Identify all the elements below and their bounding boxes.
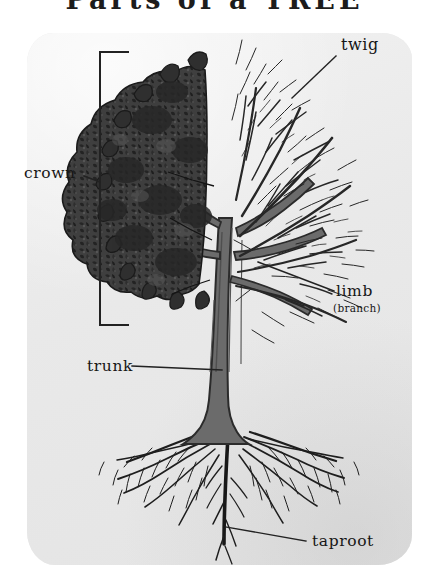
- twig-leader: [292, 56, 336, 98]
- label-limb: limb: [336, 284, 373, 300]
- label-limb-alternate-name: (branch): [333, 303, 381, 314]
- foliage-crown: [62, 52, 214, 309]
- label-taproot: taproot: [312, 534, 374, 550]
- label-trunk: trunk: [87, 359, 133, 375]
- trunk-leader: [132, 366, 222, 370]
- label-crown: crown: [24, 166, 76, 182]
- taproot-leader: [226, 527, 306, 541]
- tree-anatomy-figure: Parts of a TREE: [0, 0, 429, 585]
- label-twig: twig: [341, 37, 379, 53]
